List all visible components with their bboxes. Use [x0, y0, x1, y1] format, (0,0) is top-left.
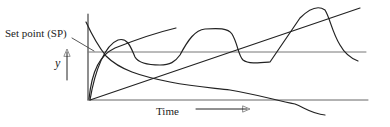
linear-ramp-line [90, 8, 360, 100]
set-point-leader [72, 38, 94, 51]
decaying-curve [86, 22, 325, 115]
control-response-diagram: Set point (SP) y Time [0, 0, 390, 127]
set-point-label: Set point (SP) [5, 27, 67, 39]
first-order-rise-curve [89, 28, 176, 99]
y-axis-label: y [55, 56, 60, 71]
time-axis-label: Time [156, 105, 179, 117]
